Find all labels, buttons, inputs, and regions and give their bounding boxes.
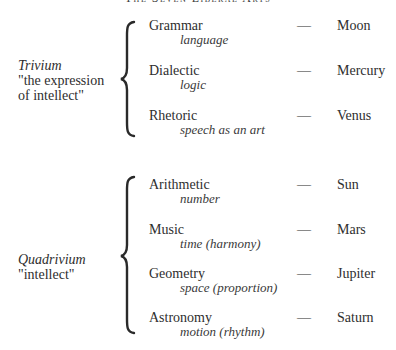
planet-name: Mercury	[337, 63, 385, 78]
group-name: Quadrivium	[18, 252, 86, 267]
art-quality: time (harmony)	[180, 236, 261, 251]
art-quality: number	[180, 191, 220, 206]
dash-separator: —	[297, 310, 311, 325]
trivium-row-grammar: Grammar language — Moon	[0, 18, 396, 48]
art-name: Rhetoric	[149, 108, 197, 123]
planet-name: Venus	[337, 108, 371, 123]
dash-separator: —	[297, 18, 311, 33]
art-quality: speech as an art	[180, 122, 265, 137]
quadrivium-row-arithmetic: Arithmetic number — Sun	[0, 177, 396, 207]
art-quality: logic	[180, 77, 206, 92]
dash-separator: —	[297, 266, 311, 281]
quadrivium-row-music: Music time (harmony) — Mars	[0, 222, 396, 252]
dash-separator: —	[297, 108, 311, 123]
art-quality: motion (rhythm)	[180, 324, 265, 339]
art-name: Grammar	[149, 18, 203, 33]
planet-name: Jupiter	[337, 266, 375, 281]
trivium-row-rhetoric: Rhetoric speech as an art — Venus	[0, 108, 396, 138]
art-name: Arithmetic	[149, 177, 210, 192]
trivium-row-dialectic: Dialectic logic — Mercury	[0, 63, 396, 93]
diagram-title: The Seven Liberal Arts	[0, 0, 396, 6]
art-name: Music	[149, 222, 184, 237]
dash-separator: —	[297, 177, 311, 192]
quadrivium-row-astronomy: Astronomy motion (rhythm) — Saturn	[0, 310, 396, 340]
planet-name: Mars	[337, 222, 366, 237]
art-name: Dialectic	[149, 63, 200, 78]
art-name: Geometry	[149, 266, 205, 281]
dash-separator: —	[297, 222, 311, 237]
planet-name: Sun	[337, 177, 359, 192]
art-name: Astronomy	[149, 310, 212, 325]
art-quality: language	[180, 32, 228, 47]
quadrivium-row-geometry: Geometry space (proportion) — Jupiter	[0, 266, 396, 296]
planet-name: Saturn	[337, 310, 374, 325]
dash-separator: —	[297, 63, 311, 78]
art-quality: space (proportion)	[180, 280, 277, 295]
planet-name: Moon	[337, 18, 370, 33]
